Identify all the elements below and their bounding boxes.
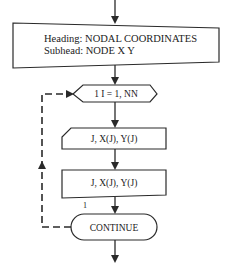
arrow-to-loop-head-icon: [111, 77, 119, 85]
flowchart: Heading: NODAL COORDINATES Subhead: NODE…: [0, 0, 229, 264]
subhead-text: Subhead: NODE X Y: [44, 45, 135, 56]
loop-back-arrowhead-icon: [66, 90, 74, 98]
exit-arrowhead-icon: [111, 255, 119, 263]
arrow-to-card-head-icon: [111, 120, 119, 128]
loop-up-arrow-icon: [38, 161, 46, 169]
loop-back-dashed-line: [42, 94, 71, 227]
arrow-to-write-head-icon: [111, 162, 119, 170]
heading-text: Heading: NODAL COORDINATES: [44, 33, 197, 44]
write-output-label: J, X(J), Y(J): [91, 178, 138, 189]
read-card-label: J, X(J), Y(J): [91, 134, 138, 145]
continue-label: CONTINUE: [90, 223, 139, 233]
arrow-to-continue-head-icon: [111, 206, 119, 214]
entry-arrowhead-icon: [111, 16, 119, 24]
loop-label: 1 I = 1, NN: [94, 89, 138, 99]
statement-label: 1: [83, 201, 87, 210]
